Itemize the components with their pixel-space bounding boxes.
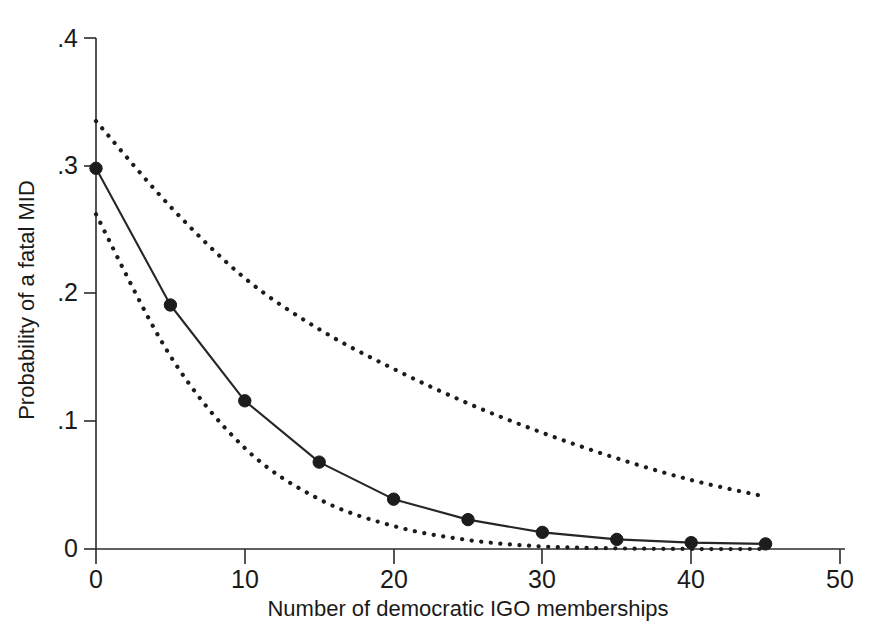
data-point-marker bbox=[759, 538, 771, 550]
x-tick-label-1: 10 bbox=[231, 565, 259, 593]
data-point-marker bbox=[387, 493, 399, 505]
chart-figure: 0 .1 .2 .3 .4 0 10 20 30 40 50 bbox=[0, 0, 877, 636]
y-tick-label-2: .2 bbox=[57, 278, 78, 306]
y-tick-label-0: 0 bbox=[64, 534, 78, 562]
x-tick-label-5: 50 bbox=[826, 565, 854, 593]
data-point-marker bbox=[164, 299, 176, 311]
data-point-marker bbox=[313, 456, 325, 468]
lower-confidence-band bbox=[96, 214, 766, 549]
x-axis-tick-labels: 0 10 20 30 40 50 bbox=[89, 565, 854, 593]
y-axis-ticks bbox=[84, 38, 96, 549]
y-tick-label-1: .1 bbox=[57, 406, 78, 434]
data-point-markers bbox=[90, 162, 772, 550]
y-tick-label-3: .3 bbox=[57, 151, 78, 179]
x-tick-label-2: 20 bbox=[380, 565, 408, 593]
probability-line-chart: 0 .1 .2 .3 .4 0 10 20 30 40 50 bbox=[0, 0, 877, 636]
data-point-marker bbox=[239, 395, 251, 407]
y-tick-label-4: .4 bbox=[57, 24, 78, 52]
x-tick-label-0: 0 bbox=[89, 565, 103, 593]
predicted-probability-line bbox=[96, 168, 766, 544]
data-point-marker bbox=[462, 513, 474, 525]
x-tick-label-3: 30 bbox=[528, 565, 556, 593]
data-point-marker bbox=[536, 526, 548, 538]
y-axis-title: Probability of a fatal MID bbox=[14, 180, 39, 420]
x-axis-title: Number of democratic IGO memberships bbox=[267, 596, 668, 621]
upper-confidence-band bbox=[96, 121, 766, 497]
data-point-marker bbox=[685, 536, 697, 548]
data-point-marker bbox=[90, 162, 102, 174]
y-axis-tick-labels: 0 .1 .2 .3 .4 bbox=[57, 24, 78, 562]
x-axis-ticks bbox=[96, 549, 840, 564]
x-tick-label-4: 40 bbox=[677, 565, 705, 593]
data-point-marker bbox=[611, 533, 623, 545]
